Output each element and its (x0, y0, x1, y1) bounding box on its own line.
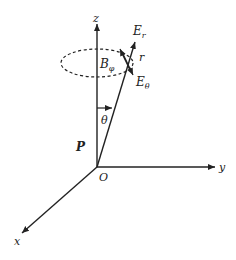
origin-label: O (99, 171, 108, 184)
theta-label: θ (101, 114, 108, 127)
dipole-field-diagram: z y x O P θ r Er Eθ Bφ (0, 0, 236, 260)
e-radial-label: Er (132, 24, 147, 40)
x-axis (22, 167, 97, 233)
e-theta-label: Eθ (135, 75, 150, 91)
z-axis-label: z (92, 12, 99, 25)
x-axis-label: x (14, 235, 21, 248)
b-phi-label: Bφ (99, 57, 115, 73)
r-label: r (139, 51, 145, 64)
dipole-label: P (75, 140, 86, 154)
y-axis-label: y (218, 161, 226, 174)
e-theta-back-arrow (120, 49, 130, 70)
